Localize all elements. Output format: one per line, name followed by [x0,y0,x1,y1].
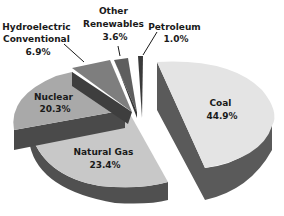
pie-chart: Hydroelectric Conventional 6.9% Other Re… [0,0,284,216]
slice-petroleum [138,56,143,118]
label-other-renewables: Other Renewables 3.6% [83,6,147,42]
leader-hydroelectric [64,44,84,62]
leader-other-renewables [118,46,120,56]
slice-coal [157,62,274,200]
leader-petroleum [143,32,157,55]
label-hydroelectric: Hydroelectric Conventional 6.9% [2,22,73,57]
slice-petroleum-top [138,56,143,118]
